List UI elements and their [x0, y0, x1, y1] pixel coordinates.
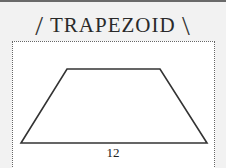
- base-length-label: 12: [100, 145, 126, 161]
- trapezoid-diagram: [0, 0, 226, 168]
- trapezoid-shape: [21, 69, 207, 143]
